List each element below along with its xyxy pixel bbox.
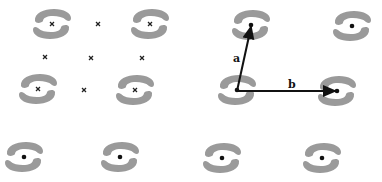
right-panel-lattice-vectors: ab [218,10,371,106]
motif [19,74,57,104]
motif [333,11,371,41]
symmetry-cross-icon [50,22,54,26]
motif [303,143,341,173]
motif [203,143,241,173]
motif [116,75,154,105]
symmetry-cross-icon [89,56,93,60]
motif-center-dot [320,156,325,161]
motif-center-dot [22,155,27,160]
lattice-diagram: ab [0,0,382,182]
symmetry-cross-icon [36,87,40,91]
symmetry-cross-icon [96,22,100,26]
vector-b-label: b [288,78,296,91]
motif [5,142,43,172]
symmetry-cross-icon [133,88,137,92]
motif [232,10,270,40]
left-panel-symmetry [19,9,169,105]
motif-center-dot [249,23,254,28]
motif-center-dot [118,155,123,160]
motif [101,142,139,172]
motif [33,9,71,39]
symmetry-cross-icon [140,56,144,60]
vector-a-label: a [233,52,240,65]
symmetry-cross-icon [82,88,86,92]
motif-center-dot [335,89,340,94]
motif-center-dot [350,24,355,29]
symmetry-cross-icon [148,22,152,26]
symmetry-cross-icon [43,55,47,59]
motif [131,9,169,39]
bottom-row-motifs [5,142,341,173]
motif-center-dot [220,156,225,161]
